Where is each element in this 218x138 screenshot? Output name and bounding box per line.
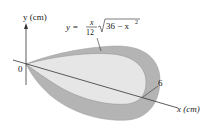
- equation-exponent: 2: [135, 19, 138, 25]
- equation-lhs: y =: [65, 22, 78, 32]
- equation-denominator: 12: [86, 28, 94, 37]
- x-axis-label: x (cm): [176, 104, 200, 114]
- y-axis-label: y (cm): [23, 12, 47, 22]
- origin-label: 0: [18, 64, 23, 74]
- tick-label-6: 6: [158, 78, 163, 88]
- equation-numerator: x: [89, 18, 94, 27]
- y-axis-arrow-icon: [24, 23, 28, 29]
- surface-of-revolution-diagram: y (cm) 0 6 x (cm) y = x 12 36 − x 2: [0, 0, 218, 138]
- equation-radicand: 36 − x: [106, 21, 130, 31]
- equation: y = x 12 36 − x 2: [65, 18, 140, 37]
